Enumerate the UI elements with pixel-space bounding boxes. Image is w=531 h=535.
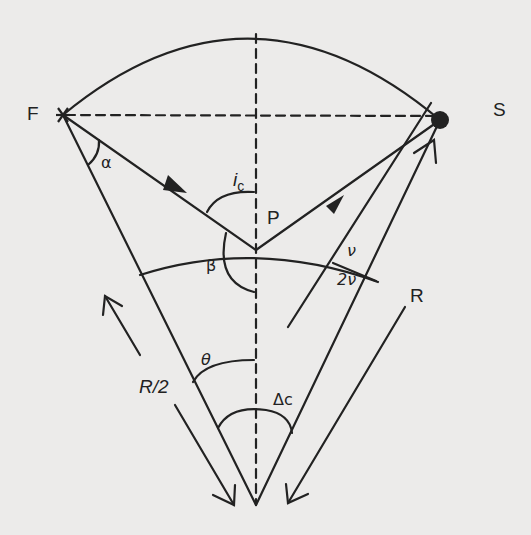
label-angle-beta: β: [206, 258, 216, 274]
label-point-p: P: [267, 208, 280, 227]
r-half-up-arrow: [105, 296, 140, 355]
beta-arc: [224, 233, 254, 292]
alpha-arc: [88, 140, 99, 165]
radius-s: [256, 120, 440, 505]
label-angle-ic-sub: c: [237, 178, 244, 194]
outer-arc: [63, 39, 440, 120]
r-down-arrow: [288, 307, 405, 503]
label-length-half-radius: R/2: [139, 377, 169, 396]
radius-f: [63, 115, 256, 505]
diagram-lines: [0, 0, 531, 535]
label-angle-ic: ic: [233, 170, 244, 189]
label-point-f: F: [27, 104, 39, 123]
label-angle-two-nu: 2ν: [337, 272, 356, 288]
label-point-s: S: [493, 100, 506, 119]
ray-f-to-p: [63, 115, 256, 250]
ray-p-to-s: [256, 120, 440, 250]
label-angle-nu: ν: [347, 243, 356, 259]
ray-f-arrowhead-icon: [163, 175, 187, 193]
label-angle-delta-c: Δc: [273, 392, 293, 408]
label-angle-alpha: α: [101, 155, 112, 171]
point-s-dot-icon: [431, 111, 449, 129]
horizontal-dashed-chord: [66, 115, 436, 116]
ic-arc: [207, 192, 254, 212]
label-length-radius: R: [410, 286, 424, 305]
label-angle-theta: θ: [201, 352, 211, 368]
diagram-canvas: F S P α ic β ν 2ν θ Δc R/2 R: [0, 0, 531, 535]
